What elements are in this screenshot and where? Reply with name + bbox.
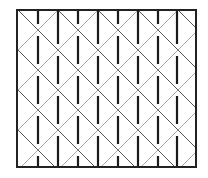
diagonal-line-up [38, 0, 208, 178]
diagram-canvas [0, 0, 208, 178]
diagonal-line-down [38, 0, 208, 178]
lattice-diagram [0, 0, 208, 178]
